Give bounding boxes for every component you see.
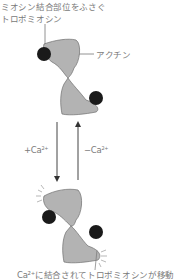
tropomyosin-lower-top (89, 91, 103, 105)
arrow-up-head (75, 121, 81, 127)
arrow-down-head (54, 176, 60, 182)
exposed-site-marks-upper (36, 185, 44, 202)
tropomyosin-lower-bottom (89, 225, 103, 239)
tropomyosin-upper-bottom (42, 210, 56, 224)
tropomyosin-upper-top (37, 47, 51, 61)
exposed-site-marks-lower (99, 250, 107, 267)
